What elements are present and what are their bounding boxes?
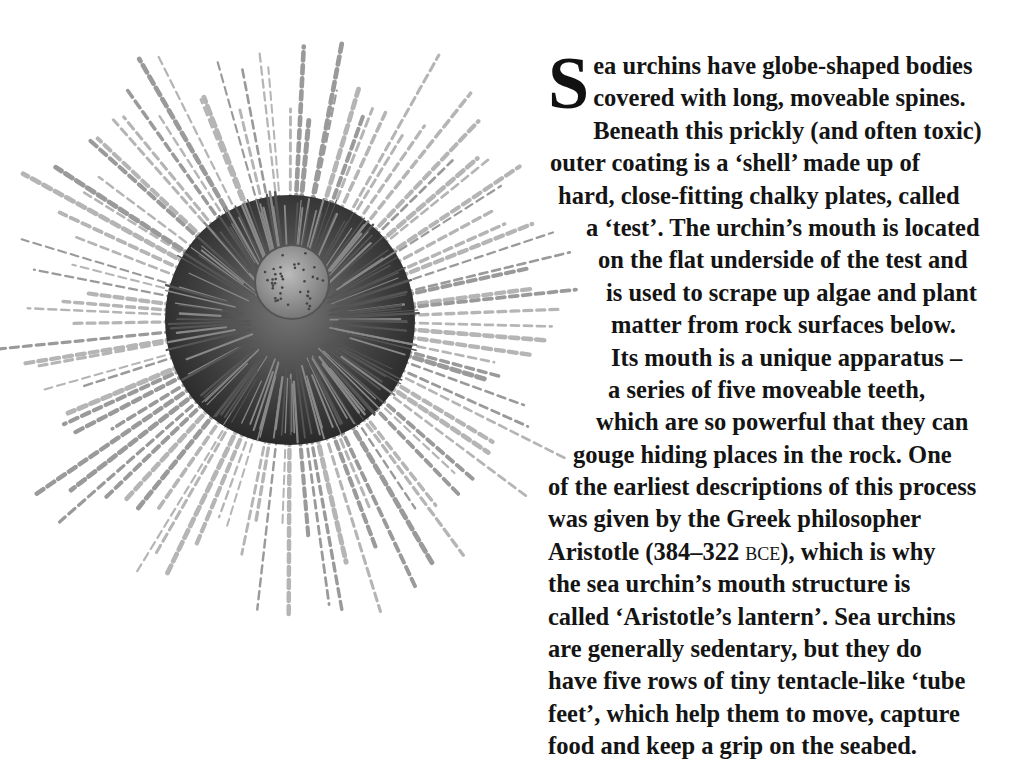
article-line: are generally sedentary, but they do: [548, 633, 1033, 665]
article-line: the sea urchin’s mouth structure is: [548, 568, 1033, 600]
sea-urchin-illustration: [0, 0, 600, 620]
article-line: a ‘test’. The urchin’s mouth is located: [548, 212, 1033, 244]
drop-cap: S: [548, 54, 589, 118]
article-line: covered with long, moveable spines.: [548, 82, 1033, 114]
article-line: gouge hiding places in the rock. One: [548, 439, 1033, 471]
article-line: of the earliest descriptions of this pro…: [548, 471, 1033, 503]
article-line: on the flat underside of the test and: [548, 244, 1033, 276]
article-line: is used to scrape up algae and plant: [548, 277, 1033, 309]
article-text: Sea urchins have globe-shaped bodiescove…: [548, 50, 1033, 763]
article-line: hard, close-fitting chalky plates, calle…: [548, 180, 1033, 212]
article-line: Aristotle (384–322 BCE), which is why: [548, 536, 1033, 568]
article-line: have five rows of tiny tentacle-like ‘tu…: [548, 665, 1033, 697]
article-line: called ‘Aristotle’s lantern’. Sea urchin…: [548, 601, 1033, 633]
smallcaps-era: BCE: [745, 544, 780, 564]
article-line: ea urchins have globe-shaped bodies: [548, 50, 1033, 82]
article-line: matter from rock surfaces below.: [548, 309, 1033, 341]
article-line: outer coating is a ‘shell’ made up of: [548, 147, 1033, 179]
article-line: a series of five moveable teeth,: [548, 374, 1033, 406]
urchin-apical-disc: [255, 245, 329, 319]
article-line: food and keep a grip on the seabed.: [548, 730, 1033, 762]
article-line: Beneath this prickly (and often toxic): [548, 115, 1033, 147]
article-line: Its mouth is a unique apparatus –: [548, 342, 1033, 374]
article-line: was given by the Greek philosopher: [548, 503, 1033, 535]
article-line: feet’, which help them to move, capture: [548, 698, 1033, 730]
article-line: which are so powerful that they can: [548, 406, 1033, 438]
